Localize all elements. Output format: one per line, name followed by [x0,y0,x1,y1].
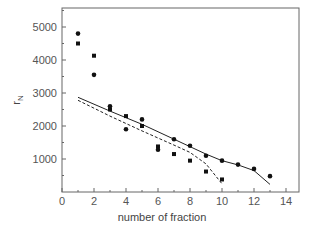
svg-text:rN: rN [10,95,25,105]
y-tick-label: 4000 [33,54,57,66]
data-markers [76,31,273,181]
square-marker [204,170,208,174]
circle-marker [188,144,193,149]
x-axis: 02468101214 [59,188,292,207]
circle-marker [236,162,241,167]
circle-marker [76,31,81,36]
x-tick-label: 4 [123,195,129,207]
x-tick-label: 10 [216,195,228,207]
y-axis-label-sub: N [16,95,25,101]
y-axis-label: rN [10,95,25,105]
square-marker [124,114,128,118]
chart: 02468101214 10002000300040005000 number … [0,0,314,228]
y-tick-label: 1000 [33,153,57,165]
circle-marker [268,174,273,179]
circle-marker [124,127,129,132]
y-tick-label: 3000 [33,87,57,99]
x-tick-label: 14 [280,195,292,207]
dashed-fit-line [78,100,222,184]
x-tick-label: 12 [248,195,260,207]
circle-marker [252,167,257,172]
square-marker [188,159,192,163]
circle-marker [172,137,177,142]
square-marker [108,108,112,112]
y-axis: 10002000300040005000 [33,11,66,176]
plot-frame [62,8,299,192]
circle-marker [140,117,145,122]
circle-marker [220,158,225,163]
square-marker [172,152,176,156]
circle-marker [92,73,97,78]
square-marker [92,54,96,58]
x-axis-label: number of fraction [118,211,207,223]
x-tick-label: 0 [59,195,65,207]
y-tick-label: 5000 [33,21,57,33]
x-tick-label: 2 [91,195,97,207]
x-tick-label: 8 [187,195,193,207]
y-tick-label: 2000 [33,120,57,132]
x-tick-label: 6 [155,195,161,207]
square-marker [140,124,144,128]
circle-marker [204,153,209,158]
square-marker [220,177,224,181]
square-marker [76,42,80,46]
square-marker [156,144,160,148]
